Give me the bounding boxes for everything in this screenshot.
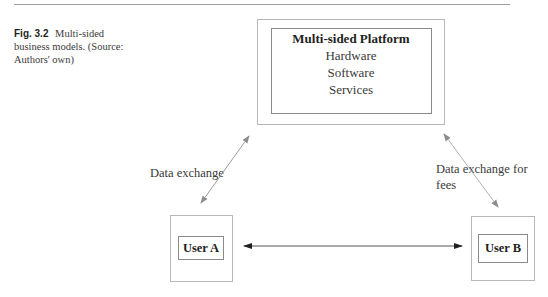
connector-arrows [0, 0, 548, 297]
right-double-arrow [444, 134, 498, 207]
left-double-arrow [201, 136, 249, 203]
